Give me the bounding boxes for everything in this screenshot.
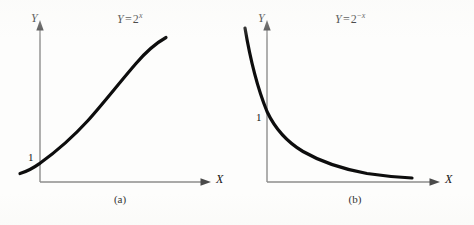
- equation-exponent-a: x: [139, 11, 143, 20]
- x-axis-arrowhead-b: [430, 178, 441, 185]
- x-axis-label-b: X: [445, 173, 452, 185]
- equation-exponent-var-a: x: [139, 11, 143, 20]
- y-axis-label-a: Y: [31, 12, 38, 24]
- equation-operator-a: =: [124, 12, 133, 26]
- equation-exponent-b: −x: [357, 11, 365, 20]
- y-tick-label-one-b: 1: [256, 112, 262, 123]
- equation-operator-b: =: [342, 12, 351, 26]
- equation-lhs-a: Y: [117, 12, 124, 26]
- y-axis-a: [36, 20, 43, 182]
- y-tick-label-one-a: 1: [28, 152, 34, 163]
- panel-exponential-growth: Y X 1 Y=2x (a): [0, 0, 237, 225]
- graph-b-svg: [237, 0, 474, 225]
- panel-caption-b: (b): [330, 194, 380, 205]
- equation-exponent-var-b: x: [362, 11, 366, 20]
- graph-a-svg: [0, 0, 237, 225]
- x-axis-arrowhead-a: [201, 178, 212, 185]
- y-axis-label-b: Y: [258, 12, 265, 24]
- x-axis-label-a: X: [216, 173, 223, 185]
- x-axis-b: [267, 178, 440, 185]
- figure-root: Y X 1 Y=2x (a) Y X 1 Y=2−x: [0, 0, 474, 225]
- equation-label-b: Y=2−x: [335, 13, 366, 25]
- panel-caption-a: (a): [95, 194, 145, 205]
- panel-exponential-decay: Y X 1 Y=2−x (b): [237, 0, 474, 225]
- equation-lhs-b: Y: [335, 12, 342, 26]
- x-axis-a: [40, 178, 211, 185]
- curve-exponential-growth: [20, 38, 166, 174]
- curve-exponential-decay: [245, 28, 412, 178]
- equation-label-a: Y=2x: [117, 13, 143, 25]
